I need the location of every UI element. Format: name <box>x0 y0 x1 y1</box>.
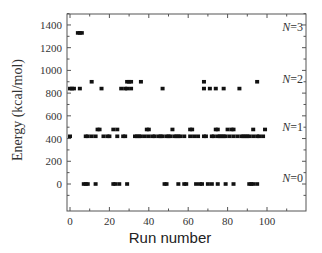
data-point <box>210 182 214 186</box>
data-point <box>125 87 129 91</box>
data-point <box>212 134 216 138</box>
data-point <box>237 87 241 91</box>
data-point <box>153 134 157 138</box>
data-point <box>192 134 196 138</box>
data-point <box>115 134 119 138</box>
y-tick-label: 800 <box>46 87 63 99</box>
data-point <box>226 128 230 132</box>
x-tick-label: 80 <box>222 215 234 227</box>
data-point <box>170 128 174 132</box>
data-point <box>182 134 186 138</box>
data-point <box>143 134 147 138</box>
y-axis: 0200400600800100012001400 <box>40 14 306 196</box>
data-point <box>255 80 259 84</box>
data-point <box>204 134 208 138</box>
data-point <box>86 182 90 186</box>
data-point <box>161 87 165 91</box>
data-point <box>168 134 172 138</box>
data-point <box>90 80 94 84</box>
y-tick-label: 400 <box>46 133 63 145</box>
data-point <box>111 128 115 132</box>
x-tick-label: 100 <box>259 215 276 227</box>
y-tick-label: 1000 <box>40 64 63 76</box>
data-point <box>80 31 84 35</box>
data-point <box>68 134 72 138</box>
data-point <box>257 134 261 138</box>
x-axis-label: Run number <box>129 229 212 246</box>
data-point <box>161 134 165 138</box>
data-point <box>147 134 151 138</box>
data-point <box>178 134 182 138</box>
y-tick-label: 1400 <box>40 19 63 31</box>
data-point <box>202 80 206 84</box>
data-point <box>115 128 119 132</box>
level-annotations: N=3N=2N=1N=0 <box>281 20 303 185</box>
level-label: N=2 <box>281 72 303 86</box>
data-point <box>100 87 104 91</box>
data-point <box>72 87 76 91</box>
data-point <box>251 182 255 186</box>
data-point <box>94 182 98 186</box>
data-point <box>190 128 194 132</box>
data-point <box>200 182 204 186</box>
data-point <box>139 134 143 138</box>
data-point <box>232 182 236 186</box>
data-point <box>202 87 206 91</box>
data-point <box>255 182 259 186</box>
data-point <box>206 182 210 186</box>
x-tick-label: 20 <box>104 215 116 227</box>
data-point <box>117 182 121 186</box>
data-point <box>196 134 200 138</box>
y-tick-label: 1200 <box>40 42 63 54</box>
level-label: N=3 <box>281 20 303 34</box>
data-point <box>90 134 94 138</box>
data-point <box>232 128 236 132</box>
data-point <box>224 134 228 138</box>
data-point <box>208 87 212 91</box>
data-point <box>119 87 123 91</box>
x-axis: 020406080100 <box>67 14 286 227</box>
data-point <box>125 182 129 186</box>
y-axis-label: Energy (kcal/mol) <box>10 59 26 161</box>
data-point <box>98 128 102 132</box>
data-point <box>94 134 98 138</box>
data-point <box>123 134 127 138</box>
data-point <box>184 182 188 186</box>
data-point <box>228 134 232 138</box>
x-tick-label: 0 <box>67 215 73 227</box>
data-points <box>68 31 267 186</box>
data-point <box>216 128 220 132</box>
data-point <box>251 134 255 138</box>
scatter-chart: 020406080100 0200400600800100012001400 N… <box>0 0 322 253</box>
y-tick-label: 0 <box>57 178 63 190</box>
data-point <box>261 134 265 138</box>
data-point <box>214 87 218 91</box>
data-point <box>251 128 255 132</box>
data-point <box>216 182 220 186</box>
data-point <box>165 182 169 186</box>
data-point <box>139 80 143 84</box>
data-point <box>235 134 239 138</box>
y-tick-label: 600 <box>46 110 63 122</box>
data-point <box>194 182 198 186</box>
data-point <box>129 87 133 91</box>
data-point <box>222 87 226 91</box>
data-point <box>86 134 90 138</box>
data-point <box>263 128 267 132</box>
data-point <box>78 87 82 91</box>
x-tick-label: 40 <box>143 215 155 227</box>
data-point <box>129 80 133 84</box>
plot-frame <box>67 14 306 211</box>
data-point <box>188 134 192 138</box>
x-tick-label: 60 <box>183 215 195 227</box>
data-point <box>101 134 105 138</box>
level-label: N=0 <box>281 171 303 185</box>
data-point <box>107 134 111 138</box>
data-point <box>224 182 228 186</box>
level-label: N=1 <box>281 120 303 134</box>
data-point <box>247 134 251 138</box>
data-point <box>176 182 180 186</box>
data-point <box>232 134 236 138</box>
y-tick-label: 200 <box>46 155 63 167</box>
data-point <box>113 182 117 186</box>
